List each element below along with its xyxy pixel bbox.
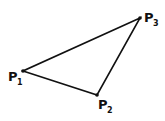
triangle-outline bbox=[23, 18, 140, 95]
vertex-p1 bbox=[21, 69, 25, 73]
svg-text:1: 1 bbox=[17, 78, 23, 87]
triangle-diagram: P 1 P 2 P 3 bbox=[0, 0, 165, 121]
label-p3: P 3 bbox=[144, 10, 159, 28]
label-p1: P 1 bbox=[8, 69, 23, 87]
svg-text:2: 2 bbox=[107, 106, 113, 115]
vertex-p3 bbox=[138, 16, 142, 20]
label-p2: P 2 bbox=[98, 97, 113, 115]
svg-text:3: 3 bbox=[153, 19, 159, 28]
